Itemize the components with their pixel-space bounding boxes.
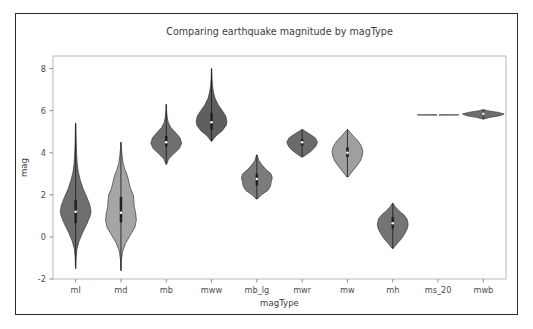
y-tick-label: 2 <box>41 190 46 200</box>
violin-md[interactable] <box>106 142 137 270</box>
violin-median-ms_20 <box>437 114 440 117</box>
x-tick-label-mw: mw <box>340 285 355 295</box>
x-tick-label-ml: ml <box>71 285 81 295</box>
y-tick-label: 6 <box>41 106 46 116</box>
x-tick-label-mh: mh <box>386 285 399 295</box>
violin-mww[interactable] <box>196 69 227 142</box>
violin-mw[interactable] <box>332 130 363 177</box>
x-axis-title: magType <box>260 298 299 308</box>
figure-canvas: Comparing earthquake magnitude by magTyp… <box>15 13 518 315</box>
x-tick-label-mwr: mwr <box>293 285 312 295</box>
violin-mb_lg[interactable] <box>241 155 272 199</box>
violin-median-mb <box>165 141 168 144</box>
violin-ml[interactable] <box>60 123 91 268</box>
y-axis-title: mag <box>19 158 29 177</box>
violin-median-mwr <box>301 141 304 144</box>
violin-mb[interactable] <box>151 104 182 164</box>
violin-median-mw <box>346 151 349 154</box>
violin-median-mww <box>210 121 213 124</box>
violin-ms_20[interactable] <box>417 114 459 117</box>
violin-chart: Comparing earthquake magnitude by magTyp… <box>16 14 517 313</box>
y-tick-label: 0 <box>41 232 46 242</box>
violin-iqr-box-md <box>120 197 122 222</box>
violin-median-mwb <box>482 113 485 116</box>
y-tick-label: -2 <box>38 274 46 284</box>
violin-median-md <box>120 211 123 214</box>
chart-title: Comparing earthquake magnitude by magTyp… <box>166 26 393 37</box>
violin-mwb[interactable] <box>463 110 505 119</box>
violin-median-mh <box>391 222 394 225</box>
x-tick-label-md: md <box>114 285 127 295</box>
y-tick-label: 4 <box>41 148 46 158</box>
violin-median-mb_lg <box>256 178 259 181</box>
x-tick-label-mwb: mwb <box>473 285 493 295</box>
y-tick-label: 8 <box>41 64 46 74</box>
figure-inner: Comparing earthquake magnitude by magTyp… <box>16 14 517 314</box>
violin-mwr[interactable] <box>287 130 318 157</box>
violin-median-ml <box>74 210 77 213</box>
x-tick-label-ms_20: ms_20 <box>425 285 452 295</box>
x-tick-label-mb_lg: mb_lg <box>244 285 269 295</box>
violin-mh[interactable] <box>377 203 408 248</box>
x-tick-label-mb: mb <box>160 285 173 295</box>
x-tick-label-mww: mww <box>201 285 223 295</box>
